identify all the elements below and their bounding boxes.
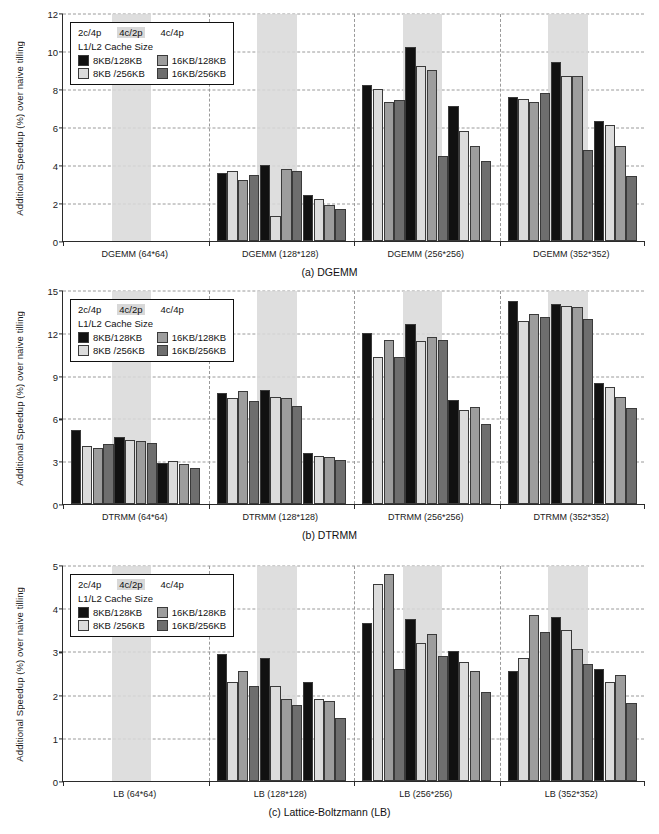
- x-axis-group-label: LB (256*256): [399, 789, 452, 799]
- bar: [292, 406, 302, 504]
- group-separator: [500, 566, 501, 781]
- bar: [508, 301, 518, 504]
- bar: [448, 106, 458, 241]
- legend-item-label: 16KB/256KB: [172, 620, 226, 631]
- legend-item-label: 16KB/256KB: [172, 345, 226, 356]
- bar: [615, 397, 625, 504]
- legend-items: 8KB/128KB 16KB/128KB 8KB /256KB 16KB/256…: [78, 55, 226, 79]
- legend-item-label: 8KB/128KB: [93, 607, 142, 618]
- bar: [335, 460, 345, 504]
- bar: [384, 574, 394, 781]
- bar: [583, 150, 593, 241]
- group-separator: [500, 291, 501, 504]
- bar: [373, 584, 383, 781]
- bar: [260, 390, 270, 504]
- bar: [605, 682, 615, 781]
- x-tick-mark: [644, 781, 645, 786]
- x-tick-mark: [354, 504, 355, 509]
- x-tick-mark: [500, 504, 501, 509]
- bar: [518, 658, 528, 781]
- subcaption-lb: (c) Lattice-Boltzmann (LB): [0, 806, 659, 818]
- legend-config-2: 4c/4p: [161, 27, 184, 38]
- bar: [217, 173, 227, 241]
- panel-dtrmm: Additional Speedup (%) over naive tillin…: [0, 285, 659, 556]
- bar: [615, 146, 625, 241]
- legend-item-label: 8KB/128KB: [93, 332, 142, 343]
- legend-config-1: 4c/2p: [117, 579, 144, 590]
- bar: [405, 47, 415, 241]
- legend-item-8kb-128kb: 8KB/128KB: [78, 607, 145, 618]
- bar: [362, 85, 372, 241]
- bar: [594, 383, 604, 504]
- bar: [427, 337, 437, 504]
- bar: [561, 306, 571, 504]
- y-axis-label-dgemm: Additional Speedup (%) over naive tillin…: [10, 14, 28, 242]
- legend-item-label: 8KB /256KB: [93, 620, 145, 631]
- bar: [529, 615, 539, 781]
- legend-swatch-icon: [78, 55, 89, 66]
- legend-item-8kb-256kb: 8KB /256KB: [78, 68, 145, 79]
- bar: [147, 443, 157, 504]
- bar: [481, 161, 491, 241]
- bar: [448, 400, 458, 504]
- bar: [394, 357, 404, 504]
- bar: [481, 424, 491, 504]
- bar: [518, 321, 528, 504]
- bar: [529, 314, 539, 504]
- bar: [93, 448, 103, 504]
- bar: [292, 705, 302, 781]
- bar: [594, 669, 604, 781]
- bar: [324, 457, 334, 504]
- bar: [438, 156, 448, 242]
- bar: [303, 682, 313, 781]
- bar: [362, 623, 372, 781]
- bar: [227, 682, 237, 781]
- legend-config-1: 4c/2p: [117, 304, 144, 315]
- bar: [470, 146, 480, 241]
- bar: [281, 398, 291, 504]
- bar: [168, 461, 178, 504]
- group-separator: [500, 14, 501, 241]
- bar: [416, 66, 426, 241]
- bar: [103, 444, 113, 504]
- bar: [605, 125, 615, 241]
- bar: [416, 643, 426, 781]
- bar: [270, 397, 280, 504]
- x-axis-group-label: DGEMM (64*64): [101, 249, 168, 259]
- bar: [373, 357, 383, 504]
- bar: [459, 131, 469, 241]
- bar: [335, 718, 345, 781]
- legend-config-2: 4c/4p: [161, 304, 184, 315]
- bar: [384, 340, 394, 504]
- bar: [551, 304, 561, 504]
- bar: [314, 199, 324, 241]
- bar: [481, 692, 491, 781]
- bar: [227, 171, 237, 241]
- bar: [362, 333, 372, 504]
- x-axis-group-label: DTRMM (352*352): [533, 512, 609, 522]
- x-axis-group-label: DGEMM (256*256): [387, 249, 464, 259]
- bar: [303, 453, 313, 504]
- legend-item-label: 16KB/256KB: [172, 68, 226, 79]
- panel-dgemm: Additional Speedup (%) over naive tillin…: [0, 0, 659, 285]
- legend-swatch-icon: [157, 345, 168, 356]
- x-tick-mark: [500, 241, 501, 246]
- bar: [405, 619, 415, 781]
- bar: [249, 401, 259, 504]
- x-axis-group-label: DTRMM (256*256): [388, 512, 464, 522]
- x-tick-mark: [209, 504, 210, 509]
- legend-item-label: 8KB /256KB: [93, 345, 145, 356]
- legend-item-label: 16KB/128KB: [172, 332, 226, 343]
- x-axis-group-label: LB (352*352): [545, 789, 598, 799]
- legend-item-16kb-256kb: 16KB/256KB: [157, 68, 226, 79]
- legend-swatch-icon: [157, 607, 168, 618]
- bar: [626, 408, 636, 504]
- legend-config-0: 2c/4p: [78, 579, 101, 590]
- bar: [551, 617, 561, 781]
- bar: [459, 410, 469, 504]
- legend-title: L1/L2 Cache Size: [78, 318, 226, 329]
- x-tick-mark: [63, 241, 64, 246]
- x-tick-mark: [644, 241, 645, 246]
- bar: [335, 209, 345, 241]
- legend-config-1: 4c/2p: [117, 27, 144, 38]
